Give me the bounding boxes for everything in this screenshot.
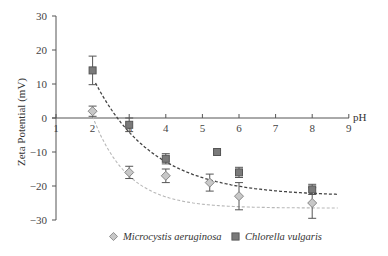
legend-label: Chlorella vulgaris — [245, 231, 322, 242]
fit-lines — [93, 83, 338, 208]
y-tick-label: −30 — [30, 214, 48, 226]
y-tick-label: −20 — [30, 180, 48, 192]
x-tick-label: 5 — [200, 122, 206, 134]
legend-item-microcystis: Microcystis aeruginosa — [109, 231, 221, 242]
legend-label: Microcystis aeruginosa — [123, 231, 221, 242]
y-tick-label: 0 — [42, 112, 48, 124]
data-point — [88, 106, 97, 116]
x-tick-label: 7 — [273, 122, 279, 134]
data-point — [125, 166, 134, 178]
data-point — [89, 56, 97, 85]
y-tick-label: 30 — [36, 10, 48, 22]
square-marker-icon — [231, 232, 240, 241]
y-tick-label: −10 — [30, 146, 48, 158]
x-tick-label: 4 — [163, 122, 169, 134]
x-tick-label: 2 — [90, 122, 96, 134]
legend-item-chlorella: Chlorella vulgaris — [231, 231, 322, 242]
y-tick-label: 20 — [36, 44, 48, 56]
x-tick-label: 1 — [53, 122, 59, 134]
diamond-marker-icon — [109, 232, 118, 241]
x-tick-label: 6 — [236, 122, 242, 134]
x-axis-label: pH — [353, 111, 367, 123]
chart-plot-area: 3020100−10−20−30 123456789 pH Zeta Poten… — [0, 0, 388, 256]
data-point — [162, 154, 170, 164]
x-ticks: 123456789 — [53, 114, 352, 134]
data-point — [308, 184, 316, 194]
data-point — [205, 174, 214, 191]
data-point — [235, 167, 243, 177]
data-point — [213, 149, 221, 156]
y-tick-label: 10 — [36, 78, 48, 90]
x-tick-label: 8 — [309, 122, 315, 134]
data-points — [88, 56, 317, 218]
x-tick-label: 9 — [346, 122, 352, 134]
data-point — [161, 169, 170, 183]
legend: Microcystis aeruginosa Chlorella vulgari… — [0, 231, 388, 249]
y-ticks: 3020100−10−20−30 — [30, 10, 56, 226]
y-axis-label: Zeta Potential (mV) — [15, 78, 28, 166]
